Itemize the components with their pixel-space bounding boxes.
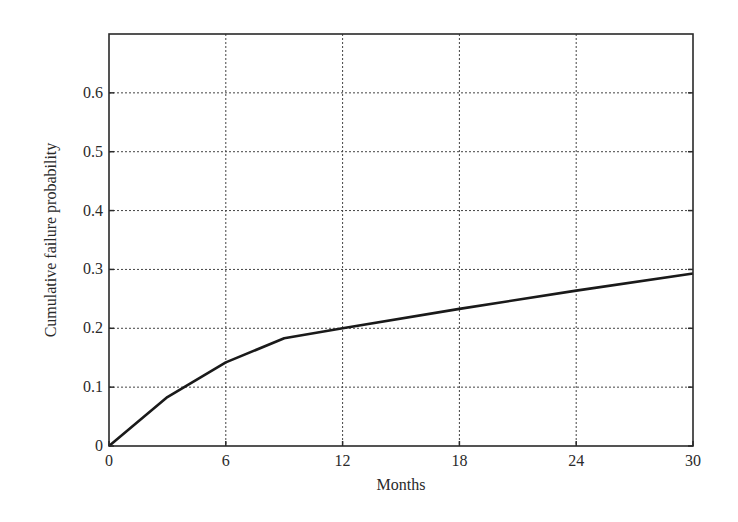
x-tick-label: 0 <box>105 452 113 469</box>
data-line <box>109 274 693 447</box>
y-tick-label: 0.4 <box>83 202 103 219</box>
x-tick-label: 24 <box>568 452 584 469</box>
x-tick-label: 12 <box>335 452 351 469</box>
y-axis-title: Cumulative failure probability <box>42 143 60 338</box>
x-tick-label: 30 <box>685 452 701 469</box>
plot-frame <box>109 34 693 446</box>
y-tick-label: 0.3 <box>83 260 103 277</box>
y-tick-label: 0.5 <box>83 143 103 160</box>
grid-lines <box>109 34 693 446</box>
y-tick-label: 0.6 <box>83 84 103 101</box>
y-tick-label: 0 <box>95 437 103 454</box>
y-tick-label: 0.1 <box>83 378 103 395</box>
line-chart: 00.10.20.30.40.50.6 0612182430 Months Cu… <box>0 0 738 522</box>
y-tick-label: 0.2 <box>83 319 103 336</box>
x-axis-title: Months <box>377 476 426 493</box>
x-tick-label: 18 <box>451 452 467 469</box>
x-tick-label: 6 <box>222 452 230 469</box>
